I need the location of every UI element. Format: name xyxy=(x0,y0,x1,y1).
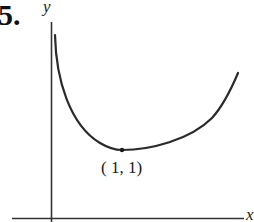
function-curve xyxy=(55,35,238,150)
minimum-point-marker xyxy=(120,148,124,152)
graph-plot xyxy=(0,0,254,222)
minimum-point-label: ( 1, 1) xyxy=(101,159,142,177)
